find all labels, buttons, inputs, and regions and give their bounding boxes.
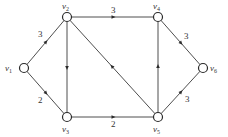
node-v4 — [154, 13, 163, 22]
edge-weight: 3 — [111, 5, 116, 15]
edge-weight: 3 — [38, 29, 43, 39]
node-label-v3: v3 — [62, 124, 69, 135]
edge-weight: 2 — [111, 119, 116, 129]
node-label-v2: v2 — [62, 1, 69, 12]
node-v5 — [154, 113, 163, 122]
node-label-v1: v1 — [5, 63, 12, 74]
node-v1 — [20, 64, 29, 73]
node-v3 — [63, 113, 72, 122]
graph-diagram: 323233 v1v2v3v4v5v6 — [0, 0, 228, 137]
node-label-v4: v4 — [153, 1, 160, 12]
node-v2 — [63, 13, 72, 22]
edge-weight: 3 — [185, 94, 190, 104]
edges-layer — [27, 15, 200, 119]
arrowhead-icon — [156, 64, 160, 68]
labels-layer: v1v2v3v4v5v6 — [5, 1, 217, 135]
node-label-v6: v6 — [210, 63, 217, 74]
node-label-v5: v5 — [153, 124, 160, 135]
edge-weight: 2 — [38, 95, 43, 105]
node-v6 — [199, 64, 208, 73]
arrowhead-icon — [65, 66, 69, 70]
arrowhead-icon — [112, 15, 116, 19]
edge-weight: 3 — [184, 31, 189, 41]
